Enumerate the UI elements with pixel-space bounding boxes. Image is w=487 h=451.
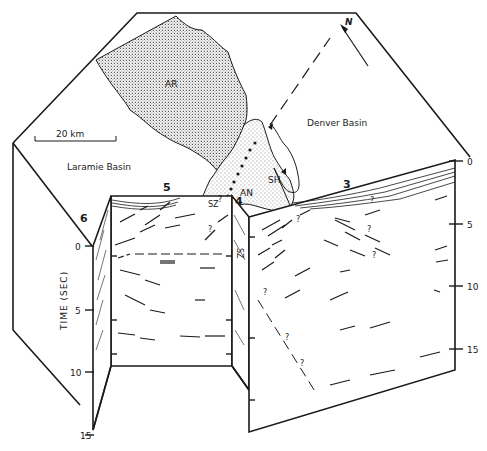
- profile-3-label: 3: [343, 178, 351, 191]
- left-tick-15: 15: [80, 431, 91, 441]
- question-mark: ?: [218, 195, 222, 204]
- profile-5-panel: 5 SZ ? ?: [111, 181, 232, 366]
- scale-bar-label: 20 km: [56, 129, 84, 139]
- left-axis-title: TIME (SEC): [59, 271, 69, 331]
- question-mark: ?: [372, 251, 376, 260]
- north-arrow: N: [340, 17, 368, 66]
- north-label: N: [345, 17, 353, 27]
- left-tick-0: 0: [75, 242, 81, 252]
- left-diag-edge: [13, 143, 92, 246]
- profile-line-3: [270, 38, 330, 125]
- question-mark: ?: [285, 333, 289, 342]
- laramie-basin-label: Laramie Basin: [67, 162, 131, 172]
- block-diagram: N 20 km AR AN SH Laramie Basin Denver Ba…: [0, 0, 487, 451]
- question-mark: ?: [300, 359, 304, 368]
- left-tick-5: 5: [75, 306, 81, 316]
- profile-4-panel: 4 SZ: [232, 195, 249, 390]
- question-mark: ?: [367, 225, 371, 234]
- right-tick-15: 15: [467, 345, 478, 355]
- region-ar-label: AR: [165, 79, 177, 89]
- profile-6-label: 6: [80, 212, 88, 225]
- question-mark: ?: [296, 215, 300, 224]
- denver-basin-label: Denver Basin: [307, 118, 367, 128]
- scale-bar: 20 km: [35, 129, 116, 141]
- right-tick-10: 10: [467, 282, 479, 292]
- region-ar: [96, 16, 247, 175]
- sz-label-4: SZ: [235, 248, 244, 259]
- profile-4-label: 4: [235, 195, 243, 208]
- left-tick-10: 10: [70, 368, 82, 378]
- profile-5-label: 5: [163, 181, 171, 194]
- question-mark: ?: [263, 288, 267, 297]
- question-mark: ?: [208, 225, 212, 234]
- right-tick-0: 0: [467, 157, 473, 167]
- question-mark: ?: [370, 196, 374, 205]
- right-tick-5: 5: [467, 220, 473, 230]
- region-sh-label: SH: [268, 175, 280, 185]
- left-axis: 0 5 10 15 TIME (SEC): [59, 242, 94, 441]
- profile-6-panel: 6: [80, 196, 111, 430]
